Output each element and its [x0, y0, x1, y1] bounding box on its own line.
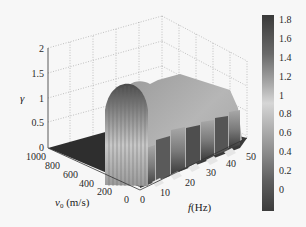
colorbar-ticks: 1.8 1.6 1.4 1.2 1 0.8 0.6 0.4 0.2 0: [279, 14, 292, 195]
svg-text:600: 600: [63, 169, 78, 180]
svg-text:30: 30: [206, 167, 216, 178]
svg-text:2: 2: [39, 43, 44, 54]
svg-text:1.5: 1.5: [32, 68, 45, 79]
svg-text:400: 400: [79, 178, 94, 189]
svg-text:50: 50: [246, 151, 256, 162]
svg-text:0: 0: [279, 184, 284, 195]
v0-axis-label: v0 (m/s): [55, 196, 90, 210]
svg-text:1: 1: [279, 90, 284, 101]
svg-text:0.8: 0.8: [279, 108, 292, 119]
svg-text:0.4: 0.4: [279, 146, 292, 157]
svg-text:800: 800: [45, 160, 60, 171]
svg-text:0.6: 0.6: [279, 127, 292, 138]
svg-text:0: 0: [140, 194, 145, 205]
f-axis-label: f(Hz): [188, 201, 212, 214]
svg-text:1.6: 1.6: [279, 33, 292, 44]
z-axis-label: γ: [20, 92, 25, 104]
svg-text:0: 0: [124, 194, 129, 205]
svg-text:200: 200: [97, 186, 112, 197]
svg-text:40: 40: [226, 158, 236, 169]
svg-text:1000: 1000: [26, 151, 46, 162]
svg-text:1.2: 1.2: [279, 71, 292, 82]
svg-text:10: 10: [160, 187, 170, 198]
svg-text:20: 20: [185, 177, 195, 188]
svg-text:0.2: 0.2: [279, 165, 292, 176]
surface-ridge: [105, 84, 148, 186]
svg-text:0.5: 0.5: [32, 117, 45, 128]
svg-text:1.8: 1.8: [279, 14, 292, 25]
z-axis-ticks: 2 1.5 1 0.5 0: [32, 43, 45, 153]
svg-text:1: 1: [39, 93, 44, 104]
svg-text:1.4: 1.4: [279, 52, 292, 63]
surface-plot: 2 1.5 1 0.5 0 γ 1000 800 600 400 200 0 v…: [0, 0, 306, 227]
colorbar: [262, 15, 274, 211]
